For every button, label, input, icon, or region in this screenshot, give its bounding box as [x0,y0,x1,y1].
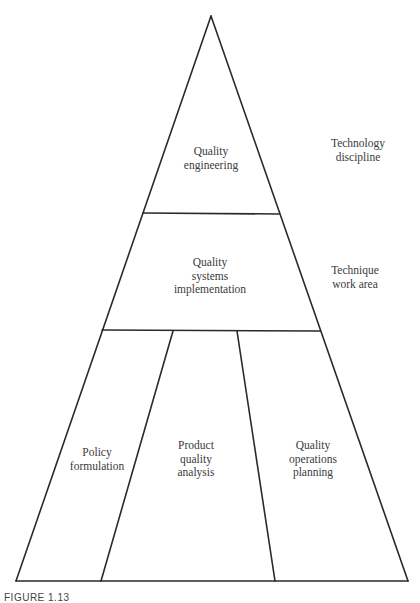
level-middle-label: Quality systems implementation [174,256,246,297]
divider-top-middle [143,213,279,214]
level-bottom-left-label: Policy formulation [70,446,124,473]
level-bottom-right-label: Quality operations planning [289,439,337,480]
level-top-side-label: Technology discipline [331,137,385,164]
level-bottom-center-label: Product quality analysis [177,439,214,480]
pyramid-right-edge [211,16,408,581]
divider-middle-bottom [102,330,320,331]
divider-bottom-right [237,331,275,581]
pyramid-left-edge [16,16,211,581]
figure-caption: FIGURE 1.13 [4,592,70,603]
level-top-label: Quality engineering [184,145,238,172]
level-middle-side-label: Technique work area [323,264,388,291]
